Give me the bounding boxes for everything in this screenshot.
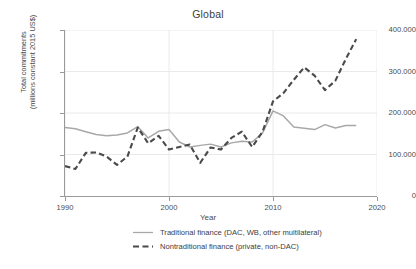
series-line-traditional	[65, 111, 356, 147]
y-tick-mark	[60, 72, 64, 73]
y-tick-mark	[60, 196, 64, 197]
legend-item-nontraditional: Nontraditional finance (private, non-DAC…	[0, 242, 416, 251]
chart-title: Global	[0, 8, 416, 20]
chart-figure: Global 0100.000200.000300.000400.0001990…	[0, 0, 416, 269]
y-axis-title-line2: (millions constant 2015 US$)	[28, 0, 37, 127]
x-axis-title: Year	[0, 213, 416, 222]
x-tick-mark	[169, 197, 170, 201]
y-tick-mark	[60, 155, 64, 156]
plot-svg	[65, 30, 377, 196]
x-tick-mark	[65, 197, 66, 201]
y-tick-mark	[60, 30, 64, 31]
x-tick-label: 1990	[45, 203, 85, 212]
x-tick-label: 2010	[253, 203, 293, 212]
plot-area	[65, 30, 377, 196]
x-tick-label: 2000	[149, 203, 189, 212]
x-tick-mark	[377, 197, 378, 201]
x-tick-mark	[273, 197, 274, 201]
y-axis-title-line1: Total commitments	[19, 0, 28, 127]
legend-swatch-solid-icon	[133, 228, 153, 237]
y-tick-mark	[60, 113, 64, 114]
legend-label-traditional: Traditional finance (DAC, WB, other mult…	[160, 228, 322, 237]
legend-item-traditional: Traditional finance (DAC, WB, other mult…	[0, 228, 416, 237]
chart-legend: Traditional finance (DAC, WB, other mult…	[0, 228, 416, 256]
legend-label-nontraditional: Nontraditional finance (private, non-DAC…	[160, 242, 299, 251]
x-tick-label: 2020	[357, 203, 397, 212]
legend-swatch-dashed-icon	[133, 242, 153, 251]
series-line-nontraditional	[65, 39, 356, 169]
y-axis-title: Total commitments (millions constant 201…	[19, 0, 39, 127]
x-axis-line	[65, 196, 377, 197]
